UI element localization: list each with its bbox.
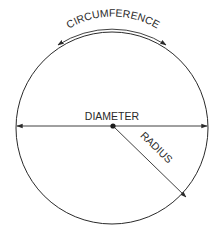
radius-label: RADIUS — [138, 129, 175, 165]
circumference-label: CIRCUMFERENCE — [64, 7, 162, 31]
diameter-label: DIAMETER — [85, 110, 140, 122]
circle-diagram: CIRCUMFERENCE CIRCUMFERENCE DIAMETER RAD… — [0, 0, 224, 238]
